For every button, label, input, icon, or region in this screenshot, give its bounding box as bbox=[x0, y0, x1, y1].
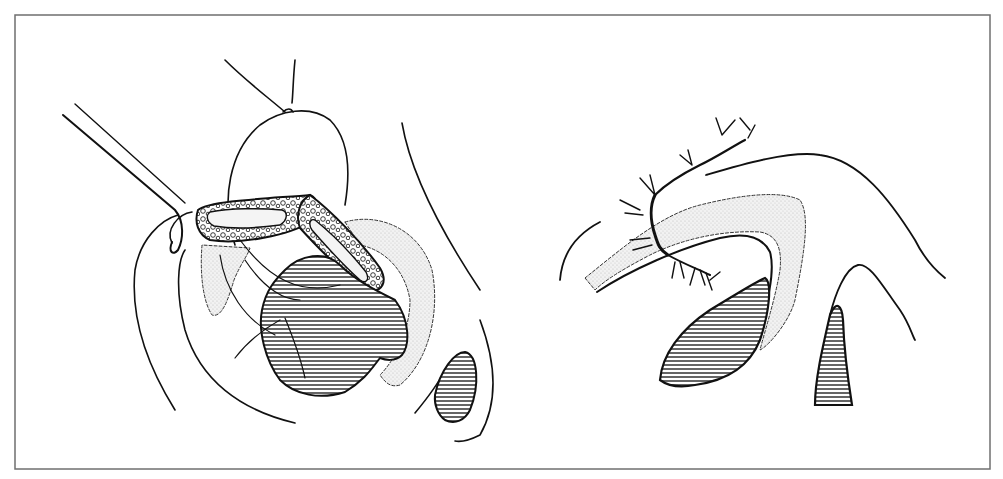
stippled-region-left bbox=[201, 245, 250, 315]
hatched-mass-small bbox=[435, 352, 476, 422]
left-panel bbox=[63, 60, 493, 441]
illustration-svg bbox=[0, 0, 1003, 479]
figure-canvas bbox=[0, 0, 1003, 479]
hatched-mass-right-narrow bbox=[815, 306, 852, 405]
right-panel bbox=[560, 118, 945, 405]
tissue-lumen-horizontal bbox=[207, 209, 286, 228]
hatched-mass-right-large bbox=[660, 278, 769, 386]
